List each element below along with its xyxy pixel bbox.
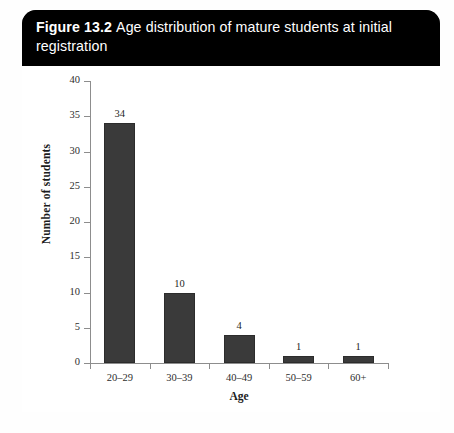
y-tick-label: 35 [36, 109, 80, 120]
x-tick-mark [328, 363, 329, 369]
x-category-label: 50–59 [269, 372, 329, 383]
figure-caption-banner: Figure 13.2 Age distribution of mature s… [22, 10, 440, 66]
x-tick-mark [90, 363, 91, 369]
x-tick-mark [269, 363, 270, 369]
x-tick-mark [150, 363, 151, 369]
y-tick-label: 10 [36, 286, 80, 297]
chart-plot-area: Number of students 0510152025303540 20–2… [22, 66, 440, 412]
y-tick-label: 15 [36, 250, 80, 261]
x-tick-mark [209, 363, 210, 369]
x-category-label: 20–29 [90, 372, 150, 383]
bar-value-label: 4 [219, 320, 259, 331]
y-tick-label: 25 [36, 180, 80, 191]
x-category-label: 30–39 [149, 372, 209, 383]
bar-value-label: 1 [338, 341, 378, 352]
bar [104, 123, 135, 363]
figure-screenshot: Figure 13.2 Age distribution of mature s… [0, 0, 454, 433]
y-tick-label: 40 [36, 74, 80, 85]
bar [343, 356, 374, 363]
y-tick-label: 5 [36, 321, 80, 332]
y-tick-label: 20 [36, 215, 80, 226]
x-tick-mark [388, 363, 389, 369]
y-axis-title: Number of students [40, 94, 52, 294]
bar [283, 356, 314, 363]
bar-value-label: 1 [279, 341, 319, 352]
figure-number-label: Figure 13.2 [36, 19, 112, 35]
bar [224, 335, 255, 363]
bar-value-label: 10 [159, 278, 199, 289]
y-tick-label: 30 [36, 145, 80, 156]
y-tick-label: 0 [36, 356, 80, 367]
bar [164, 293, 195, 364]
bar-value-label: 34 [100, 108, 140, 119]
x-category-label: 60+ [328, 372, 388, 383]
x-axis-title: Age [90, 390, 388, 402]
x-axis-line [90, 363, 388, 364]
x-category-label: 40–49 [209, 372, 269, 383]
